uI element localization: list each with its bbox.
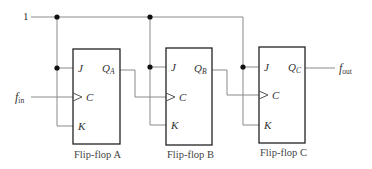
- junction-dot-icon: [147, 64, 152, 69]
- flip-flop-a-caption: Flip-flop A: [74, 150, 121, 161]
- ff-c-q-pin: QC: [288, 62, 301, 75]
- ff-b-q-pin: QB: [194, 63, 207, 76]
- ff-b-q-main: Q: [194, 62, 202, 74]
- ff-a-j-pin: J: [78, 63, 83, 74]
- ff-a-jk-wire: [57, 17, 73, 126]
- high-bus-wire: [31, 17, 259, 125]
- ff-c-q-sub: C: [296, 66, 301, 75]
- junction-dot-icon: [147, 14, 152, 19]
- fout-sub: out: [342, 67, 352, 76]
- ff-b-jk-wire: [150, 17, 166, 125]
- ff-a-k-pin: K: [78, 121, 85, 132]
- junction-dot-icon: [54, 65, 59, 70]
- junction-dot-icon: [240, 64, 245, 69]
- circuit-diagram: 1 fin fout J C K QA J C K QB J C K QC Fl…: [0, 0, 372, 169]
- ff-c-c-pin: C: [272, 90, 279, 101]
- qb-to-clock-c-wire: [212, 70, 259, 95]
- ff-a-q-sub: A: [110, 67, 115, 76]
- ff-a-q-main: Q: [102, 62, 110, 74]
- ff-b-c-pin: C: [179, 92, 186, 103]
- ff-c-k-pin: K: [264, 120, 271, 131]
- fin-label: fin: [15, 91, 24, 105]
- fin-sub: in: [18, 96, 24, 105]
- ff-a-q-pin: QA: [102, 63, 115, 76]
- qa-to-clock-b-wire: [120, 70, 166, 97]
- logic-high-label: 1: [23, 11, 29, 22]
- ff-b-k-pin: K: [171, 120, 178, 131]
- ff-a-c-pin: C: [86, 92, 93, 103]
- junction-dot-icon: [54, 14, 59, 19]
- ff-c-j-pin: J: [264, 62, 269, 73]
- flip-flop-c-caption: Flip-flop C: [260, 148, 307, 159]
- flip-flop-b-caption: Flip-flop B: [167, 150, 214, 161]
- ff-c-q-main: Q: [288, 61, 296, 73]
- ff-b-j-pin: J: [171, 62, 176, 73]
- circuit-wiring: [0, 0, 372, 169]
- fout-label: fout: [339, 62, 352, 76]
- ff-b-q-sub: B: [202, 67, 207, 76]
